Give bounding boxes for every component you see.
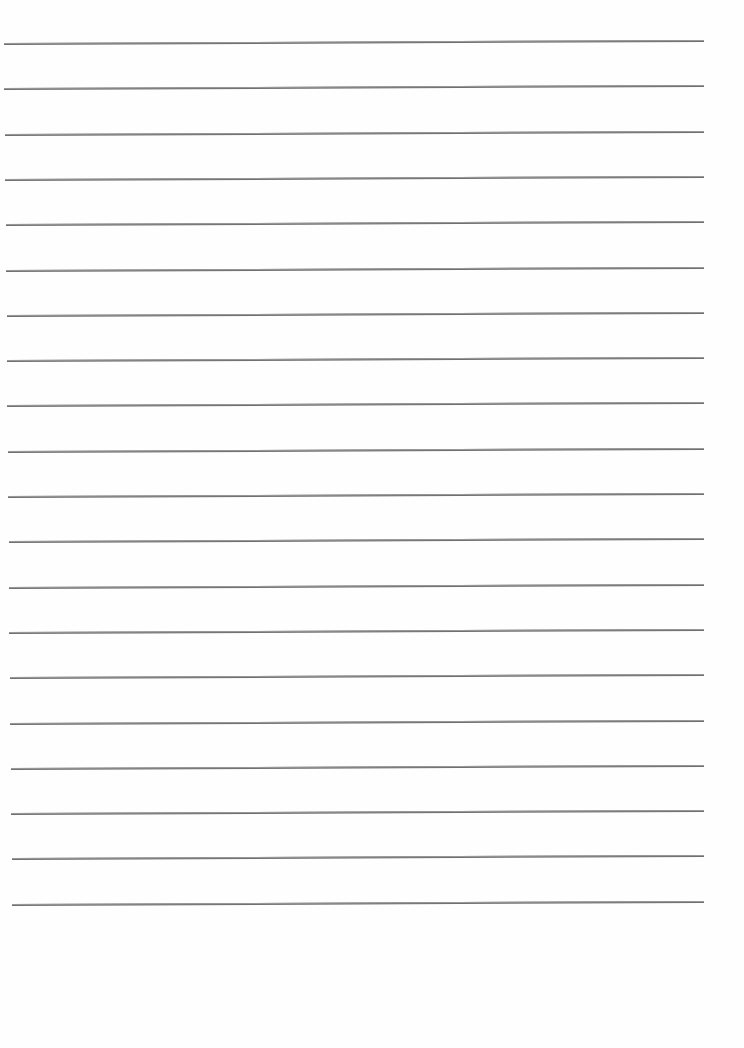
lined-paper-page bbox=[0, 0, 744, 1048]
ruled-line bbox=[6, 221, 704, 226]
ruled-line bbox=[8, 493, 704, 498]
ruled-line bbox=[5, 176, 704, 181]
ruled-line bbox=[10, 719, 704, 724]
ruled-line bbox=[5, 131, 704, 136]
ruled-line bbox=[9, 629, 704, 634]
ruled-line bbox=[8, 448, 704, 453]
ruled-line bbox=[12, 855, 704, 860]
ruled-line bbox=[7, 357, 704, 362]
ruled-line bbox=[6, 266, 704, 271]
ruled-line bbox=[9, 584, 704, 589]
ruled-line bbox=[11, 810, 704, 815]
ruled-line bbox=[7, 312, 704, 317]
ruled-line bbox=[11, 765, 704, 770]
ruled-line bbox=[4, 85, 704, 90]
ruled-line bbox=[4, 40, 704, 45]
ruled-line bbox=[10, 674, 704, 679]
ruled-line bbox=[7, 402, 704, 407]
ruled-line bbox=[9, 538, 704, 543]
ruled-line bbox=[12, 901, 704, 906]
